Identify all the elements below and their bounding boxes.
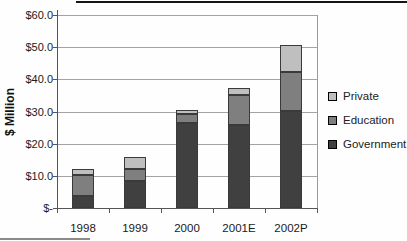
top-rule (76, 1, 407, 3)
plot-right-border (317, 15, 318, 208)
bar-segment-education-2001E (228, 95, 250, 125)
bar-segment-private-2000 (176, 110, 198, 114)
legend-label-government: Government (343, 138, 406, 150)
x-axis-label-1998: 1998 (57, 222, 109, 234)
x-axis-label-2001E: 2001E (213, 222, 265, 234)
x-axis-label-2002P: 2002P (265, 222, 317, 234)
y-tick-label-10: $10.0 (0, 170, 53, 182)
legend-item-government: Government (328, 138, 406, 150)
x-axis-line (57, 208, 318, 209)
legend-swatch-education (328, 116, 337, 125)
x-tick-mark-4 (265, 209, 266, 213)
legend-item-education: Education (328, 114, 394, 126)
y-tick-mark-60 (53, 15, 57, 16)
bar-segment-private-2002P (280, 45, 302, 72)
bar-segment-private-1999 (124, 157, 146, 169)
x-axis-label-2000: 2000 (161, 222, 213, 234)
y-tick-label-30: $30.0 (0, 106, 53, 118)
x-axis-label-1999: 1999 (109, 222, 161, 234)
y-axis-line (57, 10, 58, 208)
gridline-50 (57, 47, 317, 48)
x-tick-mark-2 (161, 209, 162, 213)
x-tick-mark-0 (57, 209, 58, 213)
y-tick-mark-50 (53, 47, 57, 48)
legend-swatch-private (328, 92, 337, 101)
bar-segment-private-2001E (228, 88, 250, 95)
bar-segment-government-2001E (228, 125, 250, 208)
bar-segment-government-1998 (72, 196, 94, 208)
bar-segment-government-2000 (176, 123, 198, 208)
chart-page: $ Million $-$10.0$20.0$30.0$40.0$50.0$60… (0, 0, 407, 241)
y-tick-label-40: $40.0 (0, 73, 53, 85)
bar-segment-education-1998 (72, 175, 94, 196)
bar-segment-private-1998 (72, 169, 94, 175)
y-tick-mark-10 (53, 176, 57, 177)
y-tick-mark-40 (53, 79, 57, 80)
gridline-60 (57, 15, 317, 16)
bar-segment-education-2000 (176, 114, 198, 124)
bar-segment-education-2002P (280, 72, 302, 111)
y-tick-label-0: $- (0, 202, 53, 214)
x-tick-mark-1 (109, 209, 110, 213)
bottom-rule (0, 238, 90, 240)
y-tick-mark-20 (53, 144, 57, 145)
y-tick-mark-30 (53, 112, 57, 113)
legend-swatch-government (328, 140, 337, 149)
bar-segment-education-1999 (124, 169, 146, 181)
gridline-40 (57, 79, 317, 80)
bar-segment-government-2002P (280, 111, 302, 208)
x-tick-mark-5 (317, 209, 318, 213)
legend-label-education: Education (343, 114, 394, 126)
legend-item-private: Private (328, 90, 379, 102)
legend-label-private: Private (343, 90, 379, 102)
y-tick-label-50: $50.0 (0, 41, 53, 53)
y-tick-label-20: $20.0 (0, 138, 53, 150)
bar-segment-government-1999 (124, 181, 146, 208)
y-tick-label-60: $60.0 (0, 9, 53, 21)
x-tick-mark-3 (213, 209, 214, 213)
